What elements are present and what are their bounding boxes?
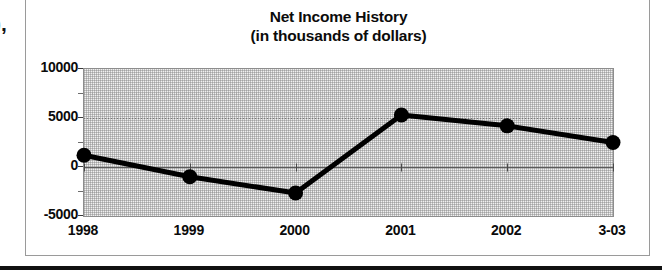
plot-area: [83, 68, 614, 217]
chart-title-block: Net Income History (in thousands of doll…: [26, 7, 651, 45]
x-axis-label: 3-03: [598, 222, 625, 238]
data-point-marker: [394, 108, 409, 123]
y-axis-label: 10000: [26, 59, 78, 75]
data-point-marker: [182, 169, 197, 184]
chart-subtitle: (in thousands of dollars): [26, 26, 651, 45]
y-axis-labels: 1000050000-5000: [26, 0, 78, 257]
series-line-net-income: [84, 115, 613, 193]
x-axis-label: 2000: [279, 222, 309, 238]
x-axis-label: 2002: [491, 222, 521, 238]
chart-title: Net Income History: [26, 7, 651, 26]
y-axis-label: -5000: [26, 206, 78, 222]
data-point-marker: [500, 118, 515, 133]
y-axis-label: 0: [26, 157, 78, 173]
line-chart-svg: [84, 69, 613, 216]
x-axis-labels: 199819992000200120023-03: [83, 222, 612, 248]
data-point-marker: [606, 135, 621, 150]
y-axis-label: 5000: [26, 108, 78, 124]
data-point-marker: [77, 148, 92, 163]
scan-edge-clipped-text: ),: [0, 12, 7, 36]
chart-frame: Net Income History (in thousands of doll…: [25, 0, 650, 256]
x-axis-label: 1998: [68, 222, 98, 238]
x-axis-label: 1999: [174, 222, 204, 238]
page-separator-rule: [0, 266, 662, 270]
data-point-marker: [288, 185, 303, 200]
x-axis-label: 2001: [385, 222, 415, 238]
